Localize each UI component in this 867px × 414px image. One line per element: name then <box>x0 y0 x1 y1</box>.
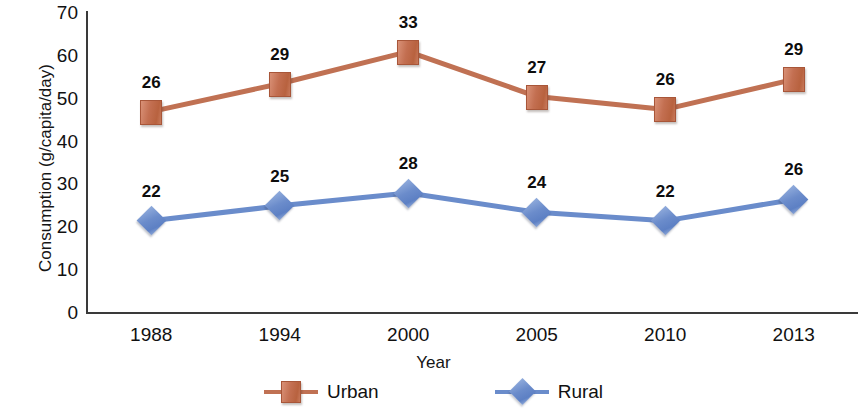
x-axis-tick: 2000 <box>363 324 453 346</box>
x-axis-tick: 2013 <box>749 324 839 346</box>
data-point-label-rural: 22 <box>630 183 700 200</box>
data-point-marker-urban <box>783 67 805 92</box>
series-lines-layer <box>0 0 867 414</box>
x-axis-title: Year <box>0 353 867 373</box>
data-point-label-urban: 33 <box>373 14 443 31</box>
data-point-label-urban: 27 <box>502 59 572 76</box>
legend-item-urban[interactable]: Urban <box>264 380 379 404</box>
x-axis-tick: 1988 <box>106 324 196 346</box>
square-marker-icon <box>264 380 318 404</box>
legend-marker <box>509 378 536 405</box>
data-point-label-urban: 29 <box>245 46 315 63</box>
legend-label: Rural <box>558 381 603 403</box>
data-point-label-urban: 26 <box>630 71 700 88</box>
legend-item-rural[interactable]: Rural <box>495 380 603 404</box>
data-point-label-urban: 29 <box>759 41 829 58</box>
data-point-marker-urban <box>526 85 548 110</box>
chart-legend: UrbanRural <box>0 380 867 404</box>
data-point-label-rural: 22 <box>116 183 186 200</box>
data-point-marker-urban <box>654 97 676 122</box>
data-point-marker-urban <box>140 100 162 125</box>
data-point-marker-urban <box>397 40 419 65</box>
data-point-label-urban: 26 <box>116 74 186 91</box>
data-point-label-rural: 25 <box>245 168 315 185</box>
legend-marker <box>281 381 301 403</box>
x-axis-tick: 2010 <box>620 324 710 346</box>
x-axis-tick: 1994 <box>235 324 325 346</box>
data-point-label-rural: 28 <box>373 155 443 172</box>
line-chart: Consumption (g/capita/day) 0102030405060… <box>0 0 867 414</box>
diamond-marker-icon <box>495 380 549 404</box>
data-point-marker-urban <box>269 72 291 97</box>
x-axis-tick: 2005 <box>492 324 582 346</box>
data-point-label-rural: 24 <box>502 174 572 191</box>
data-point-label-rural: 26 <box>759 161 829 178</box>
legend-label: Urban <box>327 381 379 403</box>
